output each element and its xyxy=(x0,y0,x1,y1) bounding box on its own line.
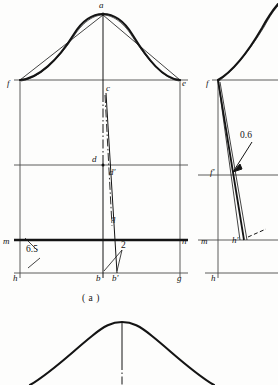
right-point-label-h-prime: h' xyxy=(232,236,238,245)
lift-line-dp-bp xyxy=(106,93,117,273)
chord-a-e xyxy=(103,15,180,80)
point-label-d: d xyxy=(92,155,97,164)
figure-caption: ( a ) xyxy=(82,294,100,304)
dimension-0-6-leader xyxy=(233,142,252,172)
profile-curve-right xyxy=(218,4,278,80)
point-label-b-prime: b' xyxy=(112,274,118,283)
work-line-f-hp-thin xyxy=(220,82,247,240)
point-label-d-prime: d' xyxy=(109,168,115,177)
right-point-label-f-prime: f' xyxy=(210,168,214,177)
point-label-e: e xyxy=(182,79,186,88)
point-label-n: n xyxy=(182,237,187,246)
dimension-label-6-5: 6.5 xyxy=(26,245,38,255)
left-view-grid xyxy=(14,80,188,278)
point-label-a: a xyxy=(99,1,104,10)
point-label-f: f xyxy=(7,79,10,88)
dimension-2-leader xyxy=(104,250,122,271)
point-label-g: g xyxy=(177,274,182,283)
work-line-f-steep xyxy=(218,80,240,240)
chord-a-f xyxy=(20,15,103,80)
dimension-label-2: 2 xyxy=(121,241,126,251)
detail-dash-near-hp xyxy=(248,229,266,237)
right-view-working-lines xyxy=(218,80,247,240)
profile-curve-left-offset xyxy=(21,15,179,81)
point-dot-a xyxy=(101,12,104,15)
leader-6-5-lower xyxy=(28,258,40,268)
leader-0-6-line xyxy=(233,142,252,172)
point-label-m: m xyxy=(3,237,10,246)
figure-root: a f e c d d' q m n h g b b' 6.5 2 f f' m… xyxy=(0,0,278,385)
figure-vector-canvas xyxy=(0,0,278,385)
point-label-b: b xyxy=(96,274,101,283)
point-label-q: q xyxy=(111,214,116,223)
right-view-grid xyxy=(198,80,278,278)
point-label-c: c xyxy=(106,84,110,93)
right-point-label-h: h xyxy=(211,274,216,283)
point-dot-d xyxy=(102,164,105,167)
lift-line-dashdot-upper xyxy=(105,95,112,226)
dimension-label-0-6: 0.6 xyxy=(240,131,252,141)
point-label-h: h xyxy=(13,274,18,283)
right-point-label-m: m xyxy=(201,237,208,246)
right-point-label-f: f xyxy=(206,79,209,88)
